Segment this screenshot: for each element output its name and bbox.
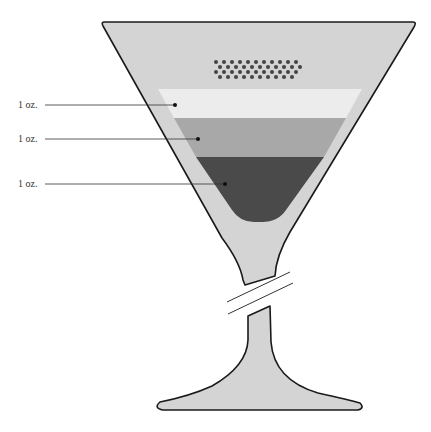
- glass-foot: [157, 306, 362, 410]
- leader-dot: [196, 137, 200, 141]
- layer-label-bottom: 1 oz.: [18, 178, 37, 190]
- layer-label-top: 1 oz.: [18, 99, 37, 111]
- leader-dot: [223, 182, 227, 186]
- layer-label-middle: 1 oz.: [18, 133, 37, 145]
- leader-dot: [173, 103, 177, 107]
- stem-break-line: [228, 283, 293, 314]
- layer-middle: [174, 118, 346, 157]
- layer-top: [158, 89, 362, 118]
- martini-glass-diagram: [0, 0, 431, 432]
